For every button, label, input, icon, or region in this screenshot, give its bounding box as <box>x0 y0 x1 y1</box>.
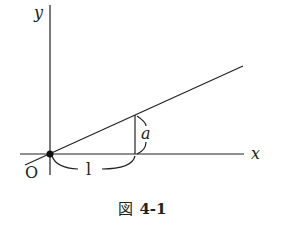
run-label: l <box>86 160 91 179</box>
figure-caption: 図4-1 <box>0 197 285 218</box>
y-axis-label: y <box>33 3 44 22</box>
rise-label: a <box>141 124 151 143</box>
run-brace <box>52 156 135 169</box>
caption-number: 4-1 <box>139 200 166 218</box>
sloped-line <box>25 66 243 165</box>
caption-prefix: 図 <box>118 200 133 218</box>
x-axis-label: x <box>251 144 260 163</box>
origin-label: O <box>25 163 38 182</box>
